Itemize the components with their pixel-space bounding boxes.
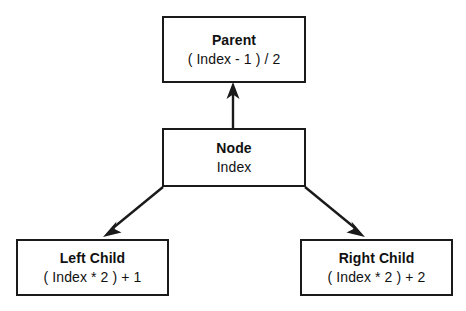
node-node-title: Node [216,140,251,157]
edge-node-to-right-child [305,187,365,237]
node-left-child-title: Left Child [60,250,126,267]
edge-node-to-parent [227,82,240,128]
node-box-right-child: Right Child ( Index * 2 ) + 2 [300,239,453,296]
node-left-child-formula: ( Index * 2 ) + 1 [44,269,142,286]
node-parent-formula: ( Index - 1 ) / 2 [188,51,281,68]
node-box-parent: Parent ( Index - 1 ) / 2 [162,16,306,83]
node-right-child-title: Right Child [339,250,415,267]
node-right-child-formula: ( Index * 2 ) + 2 [328,269,426,286]
edge-node-to-right-child-line [305,187,355,228]
node-parent-title: Parent [212,32,256,49]
node-box-node: Node Index [162,128,306,187]
node-box-left-child: Left Child ( Index * 2 ) + 1 [16,239,169,296]
diagram-canvas: Parent ( Index - 1 ) / 2 Node Index Left… [0,0,466,311]
edge-node-to-left-child [103,187,163,237]
edge-node-to-left-child-line [113,187,163,228]
node-node-formula: Index [217,159,252,176]
